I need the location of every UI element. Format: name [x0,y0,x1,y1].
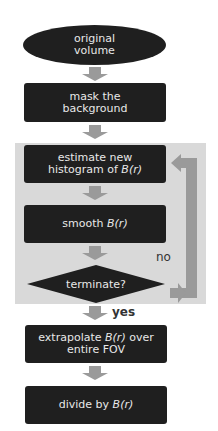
divide-node: divide by B(r) [25,386,167,424]
decision-label-container: terminate? [27,265,165,303]
smooth-node: smooth B(r) [24,205,166,243]
node-text: histogram of [48,163,121,176]
arrow-down-icon [82,67,108,81]
arrow-down-icon [82,186,108,200]
node-text: over [126,331,154,344]
yes-label: yes [112,305,135,319]
variable-text: B(r) [121,163,142,176]
node-text: entire FOV [67,343,125,356]
no-label: no [156,250,171,264]
decision-text: terminate? [66,278,126,291]
arrow-down-icon [82,306,108,320]
loop-back-arrow-icon [170,154,197,303]
node-text: background [62,102,127,115]
node-text: smooth [62,217,107,230]
arrow-down-icon [82,366,108,380]
arrow-down-icon [82,125,108,139]
estimate-histogram-node: estimate newhistogram of B(r) [24,145,166,183]
start-node: originalvolume [23,25,166,65]
mask-background-node: mask thebackground [24,83,166,122]
variable-text: B(r) [113,398,134,411]
node-text: volume [74,44,115,57]
extrapolate-node: extrapolate B(r) overentire FOV [25,325,167,363]
node-text: divide by [59,398,113,411]
variable-text: B(r) [107,217,128,230]
arrow-down-icon [82,246,108,260]
